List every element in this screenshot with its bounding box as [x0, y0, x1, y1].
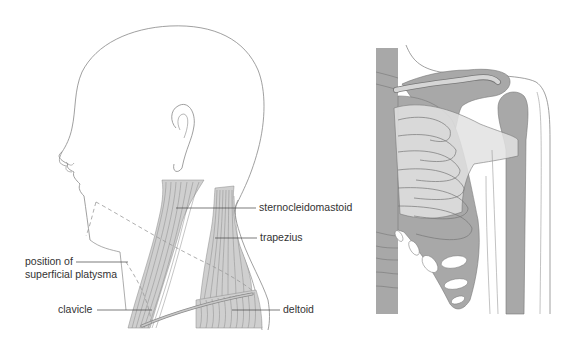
label-platysma-line2: superficial platysma	[25, 268, 117, 281]
humerus-bone	[498, 92, 528, 314]
shoulder-ribcage-illustration	[0, 0, 569, 345]
label-platysma-line1: position of	[25, 255, 73, 268]
anatomy-figure: sternocleidomastoid trapezius position o…	[0, 0, 569, 345]
label-sternocleidomastoid: sternocleidomastoid	[259, 201, 352, 214]
label-clavicle: clavicle	[58, 303, 92, 316]
label-deltoid: deltoid	[283, 303, 314, 316]
label-trapezius: trapezius	[260, 231, 303, 244]
